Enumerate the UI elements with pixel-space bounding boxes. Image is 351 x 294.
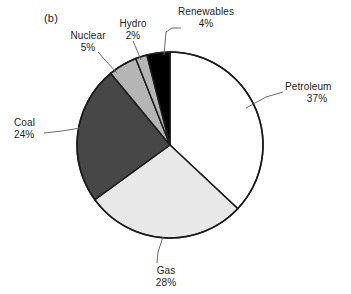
slice-label-petroleum-name: Petroleum [285, 81, 331, 92]
pie-chart-figure: (b) Renewables 4% Hydro 2% Nuclear 5% Pe… [0, 0, 351, 294]
slice-label-gas: Gas 28% [146, 265, 186, 288]
leader-line-nuclear [98, 52, 117, 73]
pie-chart-svg [0, 0, 351, 294]
slice-label-coal-value: 24% [14, 129, 56, 141]
slice-label-nuclear-name: Nuclear [70, 30, 105, 41]
slice-label-renewables-name: Renewables [178, 6, 234, 17]
slice-label-hydro-value: 2% [115, 30, 151, 42]
slice-label-nuclear: Nuclear 5% [66, 30, 110, 53]
slice-label-nuclear-value: 5% [66, 42, 110, 54]
leader-line-gas [157, 237, 163, 263]
panel-label: (b) [44, 12, 58, 24]
slice-label-gas-value: 28% [146, 277, 186, 289]
slice-label-coal: Coal 24% [14, 117, 56, 140]
slice-label-coal-name: Coal [14, 117, 35, 128]
slice-label-renewables-value: 4% [165, 18, 247, 30]
slice-label-renewables: Renewables 4% [165, 6, 247, 29]
slice-label-petroleum-value: 37% [285, 93, 349, 105]
slice-label-hydro-name: Hydro [119, 18, 146, 29]
leader-line-hydro [133, 41, 141, 60]
slice-label-hydro: Hydro 2% [115, 18, 151, 41]
slice-label-gas-name: Gas [157, 265, 176, 276]
slice-label-petroleum: Petroleum 37% [285, 81, 349, 104]
leader-line-renewables [164, 28, 181, 55]
